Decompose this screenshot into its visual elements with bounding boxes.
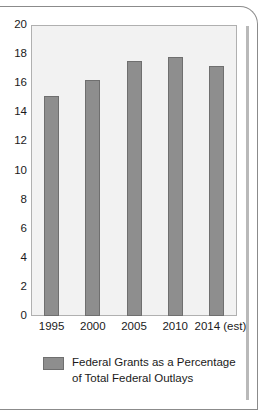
x-axis-tick-2010: 2010	[162, 320, 188, 332]
x-axis-tick-1995: 1995	[39, 320, 65, 332]
bar-2014-est-	[209, 66, 224, 316]
x-axis-tick-2000: 2000	[80, 320, 106, 332]
bar-2010	[168, 57, 183, 316]
y-axis-tick-18: 18	[3, 48, 27, 60]
source-note	[4, 392, 244, 400]
y-axis-tick-6: 6	[3, 223, 27, 235]
legend-label-line-2: of Total Federal Outlays	[72, 372, 193, 384]
legend-label-federal-grants: Federal Grants as a Percentage of Total …	[72, 355, 236, 386]
bar-1995	[44, 96, 59, 316]
bar-2005	[127, 61, 142, 316]
y-axis-tick-12: 12	[3, 136, 27, 148]
y-axis-tick-4: 4	[3, 252, 27, 264]
y-axis-tick-0: 0	[3, 310, 27, 322]
y-axis-tick-14: 14	[3, 107, 27, 119]
chart-legend: Federal Grants as a Percentage of Total …	[43, 355, 243, 386]
y-axis-tick-20: 20	[3, 19, 27, 31]
y-axis-tick-2: 2	[3, 281, 27, 293]
x-axis-tick-2005: 2005	[121, 320, 147, 332]
y-axis-tick-16: 16	[3, 77, 27, 89]
bar-chart-figure: 02468101214161820 19952000200520102014 (…	[0, 0, 258, 400]
legend-label-line-1: Federal Grants as a Percentage	[72, 356, 236, 368]
y-axis-tick-8: 8	[3, 194, 27, 206]
y-axis-tick-10: 10	[3, 165, 27, 177]
legend-swatch-federal-grants	[43, 357, 64, 370]
bar-2000	[85, 80, 100, 316]
x-axis-tick-2014-est-: 2014 (est)	[195, 320, 247, 332]
